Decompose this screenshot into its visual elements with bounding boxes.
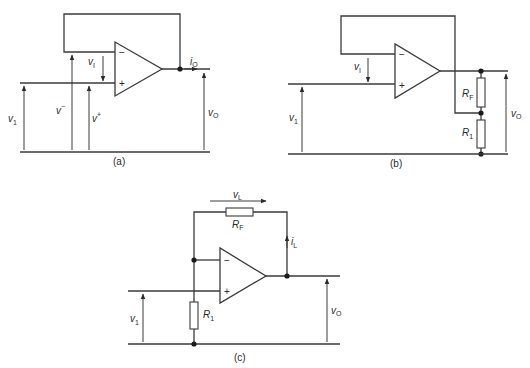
caption-c: (c) — [234, 352, 246, 363]
ground-node — [191, 341, 196, 346]
output-node — [177, 66, 182, 71]
minus-sign: − — [224, 255, 230, 266]
label-RF: RF — [462, 88, 474, 101]
resistor-R1 — [190, 302, 198, 329]
label-vI: vI — [88, 56, 95, 69]
label-v1: v1 — [130, 313, 139, 326]
label-vO: vO — [208, 107, 219, 119]
label-vO: vO — [331, 305, 342, 317]
resistor-R1 — [477, 120, 485, 148]
minus-sign: − — [399, 49, 405, 60]
label-R1: R1 — [462, 127, 473, 140]
minus-sign: − — [119, 47, 125, 58]
plus-sign: + — [224, 286, 230, 297]
output-node — [478, 68, 483, 73]
panel-b-noninverting-amplifier: − + vI v1 RF R1 vO (b) — [288, 16, 522, 169]
plus-sign: + — [119, 78, 125, 89]
caption-b: (b) — [390, 158, 402, 169]
label-vminus: v− — [56, 103, 65, 116]
label-vI: vI — [354, 61, 361, 74]
label-vO: vO — [511, 108, 522, 120]
output-node — [284, 273, 289, 278]
label-vL: vL — [233, 189, 242, 201]
resistor-RF — [477, 78, 485, 107]
label-R1: R1 — [203, 309, 214, 322]
panel-c-floating-load-amplifier: − + vL RF iL v1 R1 vO (c) — [128, 189, 342, 363]
label-iO: iO — [190, 56, 198, 68]
feedback-node — [478, 110, 483, 115]
label-vplus: v+ — [92, 111, 101, 124]
opamp-circuit-figure: − + vI v1 v− v+ iO vO (a) − + — [0, 0, 530, 368]
minus-node — [191, 257, 196, 262]
label-v1: v1 — [8, 113, 17, 126]
label-v1: v1 — [289, 112, 298, 125]
label-iL: iL — [291, 236, 297, 249]
panel-a-voltage-follower: − + vI v1 v− v+ iO vO (a) — [8, 14, 219, 167]
label-RF: RF — [232, 219, 244, 231]
caption-a: (a) — [113, 156, 125, 167]
plus-sign: + — [399, 80, 405, 91]
resistor-RF — [226, 208, 253, 216]
